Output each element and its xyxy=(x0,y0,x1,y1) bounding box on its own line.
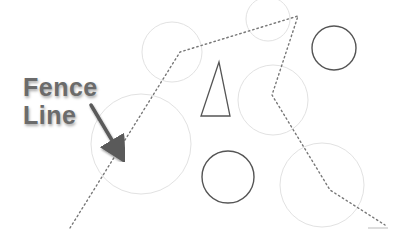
fence-line-label: Fence Line xyxy=(23,73,98,129)
triangle-shape xyxy=(201,62,230,116)
faint-circle xyxy=(142,22,202,82)
faint-circle xyxy=(91,94,191,194)
faint-circles-group xyxy=(91,0,364,227)
fence-line xyxy=(70,16,385,228)
faint-circle xyxy=(280,143,364,227)
dark-circle xyxy=(202,151,254,203)
faint-circle xyxy=(238,65,308,135)
label-line-1: Fence xyxy=(23,73,98,101)
dark-circle xyxy=(312,26,356,70)
dark-circles-group xyxy=(202,26,356,203)
label-line-2: Line xyxy=(23,101,98,129)
fence-line-diagram: Fence Line xyxy=(0,0,410,241)
